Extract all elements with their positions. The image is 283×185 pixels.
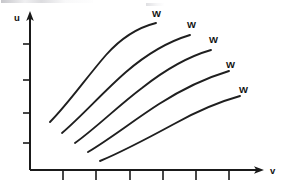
curve-3 [75,50,211,143]
curve-label-3: W [209,34,218,45]
curve-1 [50,23,156,122]
curve-label-1: W [152,8,161,19]
axes-group: u v [14,11,276,180]
x-axis-label: v [270,165,276,176]
y-axis-ticks [23,44,30,143]
curve-label-2: W [187,19,196,30]
x-axis-ticks [63,170,229,180]
curve-label-4: W [226,59,235,70]
y-axis-label: u [14,12,20,23]
uv-curve-family-diagram: u v W W W W W [0,0,283,185]
figure-canvas: u v W W W W W [0,0,283,185]
curve-label-5: W [239,84,248,95]
curve-4 [88,71,229,152]
